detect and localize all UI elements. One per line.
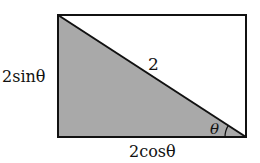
vertical-side-label: 2sinθ <box>2 67 45 86</box>
horizontal-side-label: 2cosθ <box>129 142 176 161</box>
angle-label: θ <box>210 120 219 138</box>
hypotenuse-label: 2 <box>148 54 159 74</box>
diagram-canvas: 2 2sinθ 2cosθ θ <box>0 0 260 163</box>
